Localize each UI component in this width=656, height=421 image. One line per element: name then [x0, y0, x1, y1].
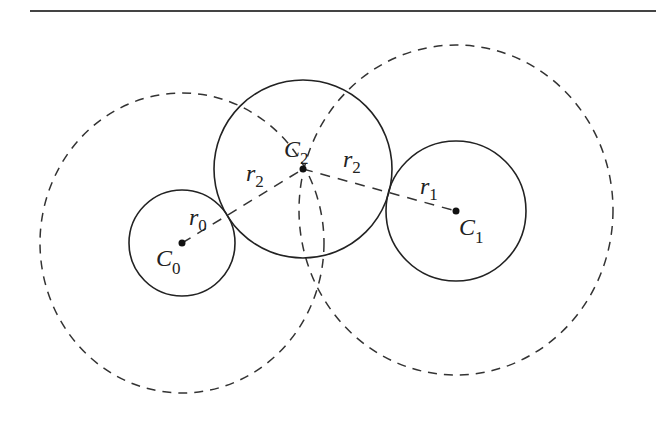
label-c2: C2 — [284, 136, 309, 168]
label-r2-left: r2 — [246, 160, 264, 191]
label-c1: C1 — [459, 214, 484, 247]
tangent-circles-diagram: C0 r0 C2 r2 r2 r1 C1 — [0, 0, 656, 421]
label-r2-right: r2 — [343, 146, 361, 177]
label-r0: r0 — [189, 204, 207, 235]
label-c0: C0 — [156, 245, 181, 278]
label-r1: r1 — [420, 173, 438, 204]
center-dot-c0 — [179, 240, 186, 247]
